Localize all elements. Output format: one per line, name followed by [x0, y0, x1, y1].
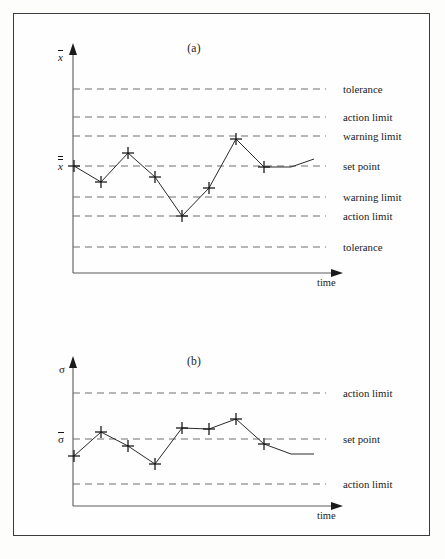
panel-a-series-line [74, 139, 314, 216]
chart-panel-b: (b) [14, 314, 431, 534]
panel-b-centre-line-symbol: σ [58, 434, 64, 445]
panel-a-x-axis-label: time [317, 277, 336, 288]
panel-b-plot [14, 314, 431, 534]
panel-b-label-setpoint: set point [343, 434, 380, 445]
panel-a-y-axis-arrow [69, 43, 77, 55]
panel-b-y-axis-arrow [69, 356, 77, 368]
panel-b-x-axis-arrow [331, 502, 343, 510]
chart-panel-a: (a) [14, 21, 431, 296]
panel-b-markers [68, 413, 270, 470]
panel-b-y-axis-symbol: σ [59, 364, 65, 375]
panel-a-label-tolerance-lower: tolerance [343, 242, 383, 253]
figure-page: (a) [0, 0, 445, 559]
panel-a-label-warning-upper: warning limit [343, 131, 401, 142]
panel-b-x-axis-label: time [317, 510, 336, 521]
panel-b-series-line [74, 419, 314, 464]
panel-a-centre-line-symbol: x [58, 161, 63, 172]
panel-a-label-tolerance-upper: tolerance [343, 84, 383, 95]
panel-b-label-action-lower: action limit [343, 479, 392, 490]
panel-a-label-action-lower: action limit [343, 211, 392, 222]
panel-a-x-axis-arrow [331, 269, 343, 277]
figure-frame: (a) [13, 13, 430, 536]
panel-a-label-setpoint: set point [343, 161, 380, 172]
panel-b-label-action-upper: action limit [343, 388, 392, 399]
panel-a-label-warning-lower: warning limit [343, 192, 401, 203]
panel-a-label-action-upper: action limit [343, 112, 392, 123]
panel-a-y-axis-symbol: x [58, 52, 63, 63]
panel-a-markers [68, 133, 270, 222]
panel-a-plot [14, 21, 431, 296]
